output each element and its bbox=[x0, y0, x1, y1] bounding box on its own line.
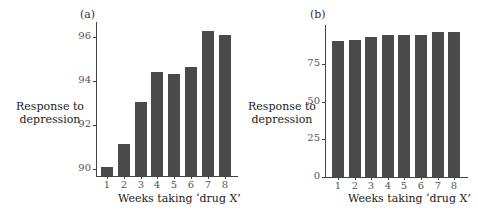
chart-panel-b: (b) Response to depression 0255075123456… bbox=[240, 0, 478, 216]
y-tick bbox=[322, 64, 325, 65]
bar-week-2 bbox=[349, 40, 361, 177]
y-tick bbox=[322, 139, 325, 140]
y-tick-label: 0 bbox=[294, 170, 320, 181]
bar-week-1 bbox=[332, 41, 344, 177]
bar-week-7 bbox=[432, 32, 444, 177]
x-tick-label: 4 bbox=[150, 179, 164, 190]
y-tick-label: 90 bbox=[65, 162, 91, 173]
x-tick-label: 6 bbox=[184, 179, 198, 190]
x-axis-line bbox=[325, 177, 468, 178]
bar-week-7 bbox=[202, 31, 214, 176]
x-tick-label: 5 bbox=[167, 179, 181, 190]
y-tick-label: 25 bbox=[294, 132, 320, 143]
y-tick bbox=[93, 125, 96, 126]
x-tick-label: 7 bbox=[431, 180, 445, 191]
bar-week-8 bbox=[448, 32, 460, 177]
bar-week-2 bbox=[118, 144, 130, 176]
x-tick-label: 2 bbox=[117, 179, 131, 190]
bar-week-3 bbox=[135, 102, 147, 176]
x-axis-title-b: Weeks taking ‘drug X’ bbox=[348, 192, 471, 205]
y-tick-label: 94 bbox=[65, 74, 91, 85]
chart-panel-a: (a) Response to depression 9092949612345… bbox=[0, 0, 240, 216]
y-axis-line bbox=[96, 22, 97, 177]
y-tick-label: 96 bbox=[65, 30, 91, 41]
x-tick-label: 7 bbox=[201, 179, 215, 190]
y-tick bbox=[93, 37, 96, 38]
y-tick bbox=[322, 177, 325, 178]
bar-week-3 bbox=[365, 37, 377, 177]
y-tick bbox=[322, 102, 325, 103]
x-tick-label: 8 bbox=[447, 180, 461, 191]
panel-label-b: (b) bbox=[310, 8, 326, 21]
x-tick-label: 8 bbox=[218, 179, 232, 190]
bar-week-8 bbox=[219, 35, 231, 176]
bar-week-5 bbox=[168, 74, 180, 176]
x-tick-label: 1 bbox=[100, 179, 114, 190]
x-tick-label: 3 bbox=[134, 179, 148, 190]
bar-week-6 bbox=[415, 35, 427, 177]
x-tick-label: 2 bbox=[348, 180, 362, 191]
y-tick-label: 50 bbox=[294, 95, 320, 106]
bar-week-1 bbox=[101, 167, 113, 176]
y-tick bbox=[93, 169, 96, 170]
x-tick-label: 5 bbox=[397, 180, 411, 191]
x-tick-label: 6 bbox=[414, 180, 428, 191]
bar-week-4 bbox=[151, 72, 163, 176]
y-axis-line bbox=[325, 25, 326, 178]
panel-label-a: (a) bbox=[80, 8, 95, 21]
y-tick-label: 92 bbox=[65, 118, 91, 129]
bar-week-6 bbox=[185, 67, 197, 176]
bar-week-4 bbox=[382, 35, 394, 177]
bar-week-5 bbox=[398, 35, 410, 177]
y-tick-label: 75 bbox=[294, 57, 320, 68]
x-tick-label: 3 bbox=[364, 180, 378, 191]
y-tick bbox=[93, 81, 96, 82]
x-axis-title-a: Weeks taking ‘drug X’ bbox=[118, 192, 241, 205]
x-tick-label: 1 bbox=[331, 180, 345, 191]
x-axis-line bbox=[96, 176, 238, 177]
x-tick-label: 4 bbox=[381, 180, 395, 191]
